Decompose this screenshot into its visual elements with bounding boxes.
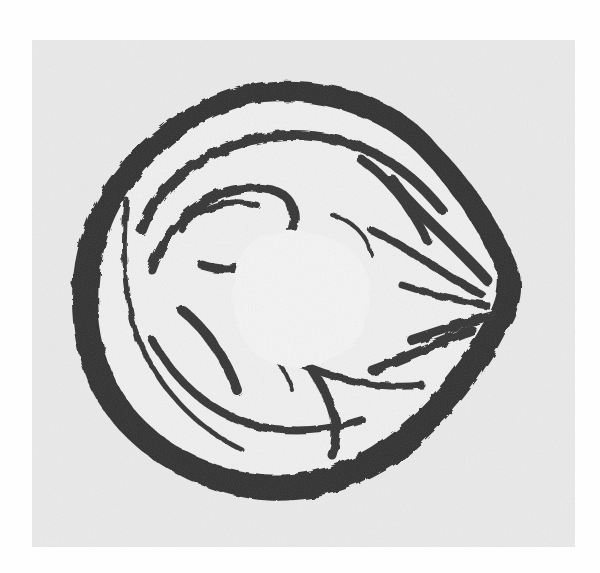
micrograph-plate	[32, 40, 575, 547]
film-grain	[32, 40, 575, 547]
specimen-cross-section	[32, 40, 575, 547]
